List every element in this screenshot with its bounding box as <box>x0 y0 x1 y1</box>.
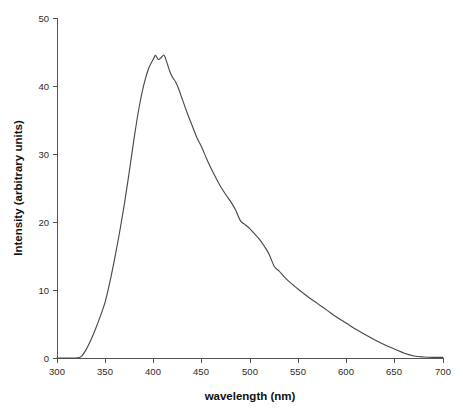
x-tick-label-400: 400 <box>145 366 161 377</box>
x-tick-label-650: 650 <box>386 366 402 377</box>
y-tick-label-10: 10 <box>38 285 49 296</box>
y-tick-label-20: 20 <box>38 217 49 228</box>
x-tick-label-350: 350 <box>97 366 113 377</box>
chart-background <box>0 0 463 419</box>
x-axis-title: wavelength (nm) <box>204 390 296 402</box>
x-tick-label-550: 550 <box>290 366 306 377</box>
y-tick-label-30: 30 <box>38 149 49 160</box>
chart-canvas: 50 40 30 20 10 0 Intensity (arbitrary un… <box>0 0 463 419</box>
x-tick-label-450: 450 <box>193 366 209 377</box>
x-tick-label-700: 700 <box>435 366 451 377</box>
x-tick-labels: 300 350 400 450 500 550 600 650 700 <box>49 366 451 377</box>
y-axis-title: Intensity (arbitrary units) <box>12 120 24 256</box>
y-tick-label-50: 50 <box>38 13 49 24</box>
y-tick-label-40: 40 <box>38 81 49 92</box>
x-tick-label-300: 300 <box>49 366 65 377</box>
spectrum-chart-figure: 50 40 30 20 10 0 Intensity (arbitrary un… <box>0 0 463 419</box>
y-tick-label-0: 0 <box>44 353 49 364</box>
x-tick-label-600: 600 <box>338 366 354 377</box>
x-tick-label-500: 500 <box>242 366 258 377</box>
